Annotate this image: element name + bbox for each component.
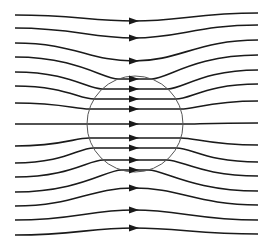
streamline [15,101,258,109]
arrow-right-icon [129,35,139,42]
arrow-right-icon [129,86,139,93]
streamline [15,160,258,177]
arrow-right-icon [129,135,139,142]
arrow-right-icon [129,185,139,192]
arrow-right-icon [129,207,139,214]
arrow-right-icon [129,225,139,232]
diagram-canvas [0,0,273,248]
streamline [15,25,258,38]
streamline [15,13,258,21]
streamline [15,84,258,99]
arrow-right-icon [129,96,139,103]
arrow-right-icon [129,58,139,65]
streamline [15,210,258,220]
arrow-right-icon [129,121,139,128]
streamline [15,228,258,235]
arrow-right-icon [129,157,139,164]
arrowheads-group [129,18,139,232]
field-lines-diagram [0,0,273,248]
arrow-right-icon [129,18,139,25]
arrow-right-icon [129,106,139,113]
arrow-right-icon [129,145,139,152]
streamline [15,138,258,146]
streamline [15,188,258,206]
